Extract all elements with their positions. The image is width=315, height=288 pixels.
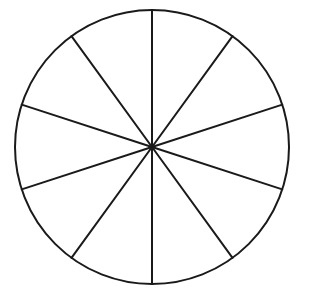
pie-circle-diagram: Circle divided into ten equal sectors A … — [0, 0, 315, 288]
figure-container: Circle divided into ten equal sectors A … — [0, 0, 315, 288]
